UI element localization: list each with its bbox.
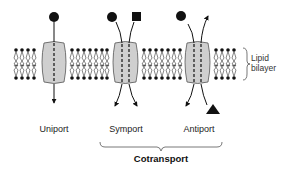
membrane-transport-diagram (0, 0, 283, 173)
solute-triangle-icon (206, 104, 220, 114)
cotransport-brace (100, 142, 222, 151)
lipid-bilayer-label: Lipid bilayer (251, 53, 276, 73)
symport-label: Symport (109, 124, 143, 134)
antiport-transporter (176, 11, 220, 114)
solute-circle-icon (176, 11, 186, 21)
symport-transporter (107, 12, 141, 106)
antiport-label: Antiport (183, 124, 214, 134)
solute-square-icon (132, 12, 141, 21)
solute-circle-icon (107, 12, 117, 22)
uniport-transporter (42, 12, 66, 103)
solute-circle-icon (49, 12, 59, 22)
cotransport-label: Cotransport (134, 153, 188, 164)
uniport-label: Uniport (39, 124, 68, 134)
bilayer-brace (243, 48, 250, 80)
